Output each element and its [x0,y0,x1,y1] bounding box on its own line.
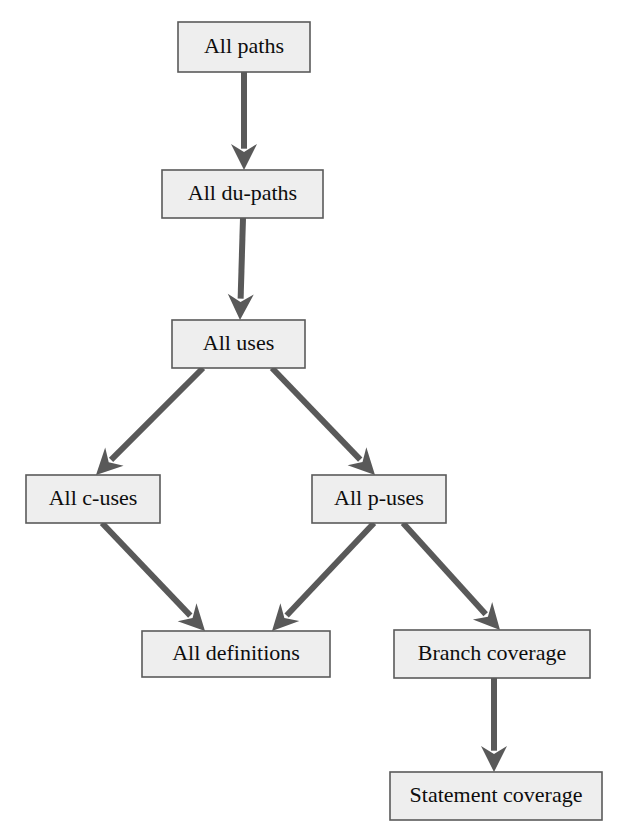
node-label-statement-coverage: Statement coverage [410,782,583,807]
edge-shaft [287,523,374,616]
node-label-all-p-uses: All p-uses [334,485,424,510]
edge-arrow [272,523,374,631]
edge-arrow [228,218,254,320]
diagram-canvas: All pathsAll du-pathsAll usesAll c-usesA… [0,0,627,837]
node-label-all-uses: All uses [203,330,275,355]
flowchart-svg: All pathsAll du-pathsAll usesAll c-usesA… [0,0,627,837]
edge-shaft [102,523,190,616]
edge-shaft [403,523,486,614]
node-label-branch-coverage: Branch coverage [418,640,566,665]
node-all-uses[interactable]: All uses [172,320,305,368]
edge-shaft [241,218,243,299]
node-branch-coverage[interactable]: Branch coverage [394,630,590,678]
node-label-all-definitions: All definitions [172,640,300,665]
edge-arrow [96,368,203,475]
nodes-layer: All pathsAll du-pathsAll usesAll c-usesA… [26,22,602,820]
edge-arrow [481,678,507,772]
node-all-paths[interactable]: All paths [178,22,310,72]
edge-arrow [102,523,205,631]
edge-arrow [272,368,375,475]
node-all-definitions[interactable]: All definitions [142,631,330,677]
edge-shaft [111,368,203,460]
edge-shaft [272,368,360,460]
edge-arrow [403,523,500,630]
node-all-c-uses[interactable]: All c-uses [26,475,160,523]
node-all-du-paths[interactable]: All du-paths [162,170,323,218]
node-label-all-paths: All paths [204,33,284,58]
node-label-all-du-paths: All du-paths [188,180,297,205]
edge-arrow [231,72,257,170]
node-all-p-uses[interactable]: All p-uses [312,475,446,523]
node-label-all-c-uses: All c-uses [49,485,138,510]
node-statement-coverage[interactable]: Statement coverage [390,772,602,820]
